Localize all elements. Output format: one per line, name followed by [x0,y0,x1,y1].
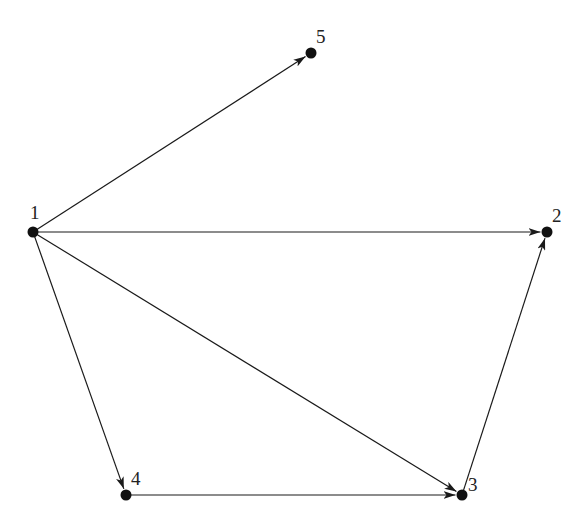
node-label-5: 5 [316,26,326,47]
edge-1-to-3 [35,233,456,491]
edge-1-to-5 [35,57,305,231]
node-label-2: 2 [552,205,562,226]
node-label-1: 1 [30,202,40,223]
edge-3-to-2 [463,238,545,492]
labels-group: 12345 [30,26,562,495]
edges-group [34,57,545,495]
edge-1-to-4 [34,235,124,489]
node-3 [457,490,468,501]
node-2 [542,227,553,238]
nodes-group [28,48,553,501]
node-5 [306,48,317,59]
node-label-4: 4 [131,468,141,489]
directed-graph-diagram: 12345 [0,0,583,531]
node-label-3: 3 [468,474,478,495]
node-4 [121,490,132,501]
node-1 [28,227,39,238]
